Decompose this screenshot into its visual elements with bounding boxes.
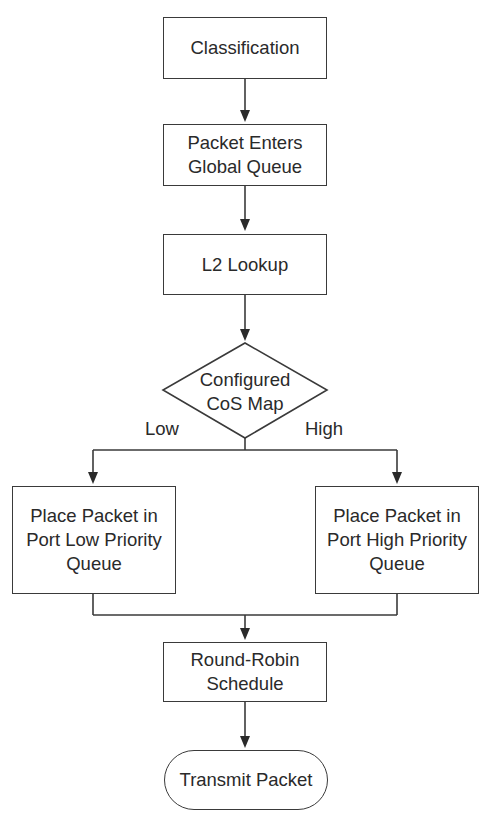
edge-label-low: Low [145,418,179,440]
edge-label-high: High [305,418,343,440]
node-low-priority-queue: Place Packet in Port Low Priority Queue [12,486,176,594]
node-high-priority-queue: Place Packet in Port High Priority Queue [315,486,479,594]
node-round-robin: Round-Robin Schedule [163,642,327,702]
decision-cos-map-label: Configured CoS Map [163,368,327,416]
node-transmit-packet: Transmit Packet [164,750,328,810]
node-l2-lookup: L2 Lookup [163,234,327,295]
node-global-queue: Packet Enters Global Queue [163,124,327,186]
node-classification: Classification [163,17,327,79]
